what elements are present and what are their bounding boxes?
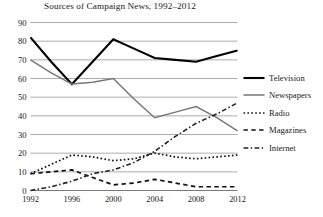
y-axis-tick-label: 20 bbox=[18, 148, 27, 158]
legend-item-internet[interactable]: Internet bbox=[243, 139, 323, 157]
x-axis-tick-label: 1992 bbox=[22, 195, 39, 204]
legend-label: Television bbox=[269, 73, 305, 83]
x-axis-tick-label: 2012 bbox=[229, 195, 246, 204]
legend-item-television[interactable]: Television bbox=[243, 69, 323, 87]
legend-swatch-newspapers-icon bbox=[243, 90, 265, 100]
y-axis-tick-label: 40 bbox=[18, 111, 27, 121]
y-axis-tick-label: 90 bbox=[18, 18, 27, 28]
chart-legend: TelevisionNewspapersRadioMagazinesIntern… bbox=[243, 69, 323, 157]
legend-swatch-radio-icon bbox=[243, 108, 265, 118]
line-chart: Sources of Campaign News, 1992–2012 0102… bbox=[0, 0, 323, 217]
y-axis-tick-labels: 0102030405060708090 bbox=[18, 18, 27, 196]
legend-item-magazines[interactable]: Magazines bbox=[243, 122, 323, 140]
y-axis-tick-label: 30 bbox=[18, 130, 27, 140]
legend-item-radio[interactable]: Radio bbox=[243, 104, 323, 122]
x-axis-tick-label: 1996 bbox=[64, 195, 81, 204]
series-line-radio bbox=[31, 153, 238, 174]
legend-swatch-internet-icon bbox=[243, 143, 265, 153]
series-line-television bbox=[31, 37, 238, 84]
legend-item-newspapers[interactable]: Newspapers bbox=[243, 87, 323, 105]
legend-label: Internet bbox=[269, 143, 296, 153]
y-axis-tick-label: 80 bbox=[18, 36, 27, 46]
legend-swatch-television-icon bbox=[243, 73, 265, 83]
data-series bbox=[31, 37, 238, 190]
x-axis-tick-labels: 199219962000200420082012 bbox=[22, 195, 246, 204]
series-line-magazines bbox=[31, 170, 238, 187]
y-axis-tick-label: 70 bbox=[18, 55, 27, 65]
y-axis-tick-label: 10 bbox=[18, 167, 27, 177]
x-axis-tick-label: 2004 bbox=[146, 195, 164, 204]
x-axis-tick-label: 2008 bbox=[188, 195, 205, 204]
y-axis-tick-label: 50 bbox=[18, 92, 27, 102]
y-axis-tick-label: 60 bbox=[18, 74, 27, 84]
x-axis-tick-label: 2000 bbox=[105, 195, 122, 204]
series-line-newspapers bbox=[31, 60, 238, 131]
legend-swatch-magazines-icon bbox=[243, 125, 265, 135]
legend-label: Radio bbox=[269, 108, 290, 118]
legend-label: Newspapers bbox=[269, 90, 311, 100]
legend-label: Magazines bbox=[269, 125, 306, 135]
